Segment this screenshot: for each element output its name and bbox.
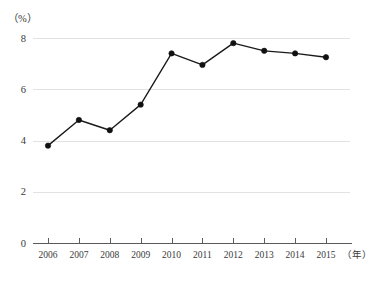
data-point-marker xyxy=(262,48,267,53)
y-axis-tick-label: 4 xyxy=(21,135,27,146)
data-point-marker xyxy=(138,102,143,107)
data-point-marker xyxy=(45,143,50,148)
x-axis-tick-label: 2010 xyxy=(162,250,181,260)
line-chart: （%） 02468 200620072008200920102011201220… xyxy=(0,0,378,291)
x-axis-tick-label: 2013 xyxy=(255,250,274,260)
data-point-marker xyxy=(169,51,174,56)
x-axis-tick-label: 2014 xyxy=(286,250,305,260)
x-axis-tick-label: 2008 xyxy=(100,250,119,260)
x-axis-tick-label: 2012 xyxy=(224,250,243,260)
data-point-marker xyxy=(292,51,297,56)
data-point-marker xyxy=(107,128,112,133)
x-axis-tick-label: 2015 xyxy=(317,250,336,260)
chart-background xyxy=(0,0,378,291)
data-point-marker xyxy=(323,55,328,60)
y-axis-unit-label: （%） xyxy=(8,13,37,24)
y-axis-tick-label: 2 xyxy=(21,186,26,197)
x-axis-tick-label: 2009 xyxy=(131,250,150,260)
x-axis-tick-label: 2011 xyxy=(193,250,212,260)
chart-container: （%） 02468 200620072008200920102011201220… xyxy=(0,0,378,291)
y-axis-tick-label: 0 xyxy=(21,238,26,249)
x-axis-tick-label: 2007 xyxy=(69,250,88,260)
data-point-marker xyxy=(200,62,205,67)
x-axis-tick-label: 2006 xyxy=(39,250,58,260)
y-axis-tick-label: 8 xyxy=(21,33,26,44)
data-point-marker xyxy=(76,117,81,122)
data-point-marker xyxy=(231,40,236,45)
y-axis-tick-label: 6 xyxy=(21,84,26,95)
x-axis-unit-label: （年） xyxy=(342,249,372,260)
